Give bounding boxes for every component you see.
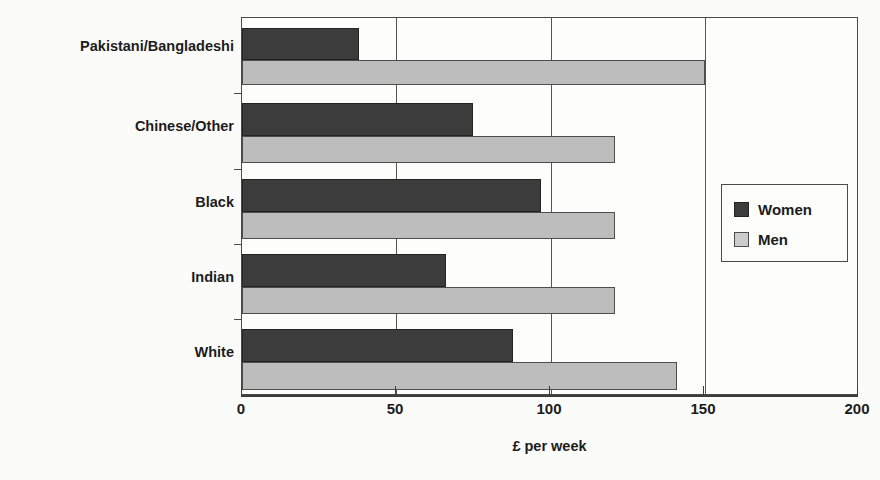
bar-chinese-other-women <box>242 103 473 136</box>
y-label-chinese-other: Chinese/Other <box>2 118 234 134</box>
x-tick-label-0: 0 <box>211 400 271 417</box>
bar-pakistani-bangladeshi-women <box>242 28 359 60</box>
bar-black-men <box>242 212 615 239</box>
bar-chinese-other-men <box>242 136 615 163</box>
bar-black-women <box>242 179 541 212</box>
x-tick-label-200: 200 <box>827 400 880 417</box>
x-tick-label-50: 50 <box>365 400 425 417</box>
x-tick-50 <box>395 386 396 397</box>
x-axis-title: £ per week <box>241 438 858 454</box>
dark-swatch-icon <box>734 202 749 217</box>
y-label-indian: Indian <box>2 269 234 285</box>
bar-indian-men <box>242 287 615 314</box>
x-tick-label-150: 150 <box>673 400 733 417</box>
x-tick-label-100: 100 <box>519 400 579 417</box>
legend-label-women: Women <box>758 201 812 218</box>
gridline-150 <box>705 18 706 394</box>
bar-white-men <box>242 362 677 390</box>
light-swatch-icon <box>734 232 749 247</box>
chart-title <box>241 0 858 3</box>
bar-white-women <box>242 329 513 362</box>
y-label-black: Black <box>2 194 234 210</box>
x-tick-150 <box>703 386 704 397</box>
x-tick-100 <box>549 386 550 397</box>
legend-item-women: Women <box>734 194 847 224</box>
bar-indian-women <box>242 254 446 287</box>
y-label-pakistani-bangladeshi: Pakistani/Bangladeshi <box>2 38 234 54</box>
y-axis-category-labels: Pakistani/Bangladeshi Chinese/Other Blac… <box>0 0 234 480</box>
legend: Women Men <box>721 184 848 262</box>
legend-label-men: Men <box>758 231 788 248</box>
y-label-white: White <box>2 344 234 360</box>
x-tick-0 <box>241 386 242 397</box>
legend-item-men: Men <box>734 224 847 254</box>
bar-pakistani-bangladeshi-men <box>242 60 705 85</box>
x-tick-200 <box>857 386 858 397</box>
bar-chart-figure: Pakistani/Bangladeshi Chinese/Other Blac… <box>0 0 880 480</box>
